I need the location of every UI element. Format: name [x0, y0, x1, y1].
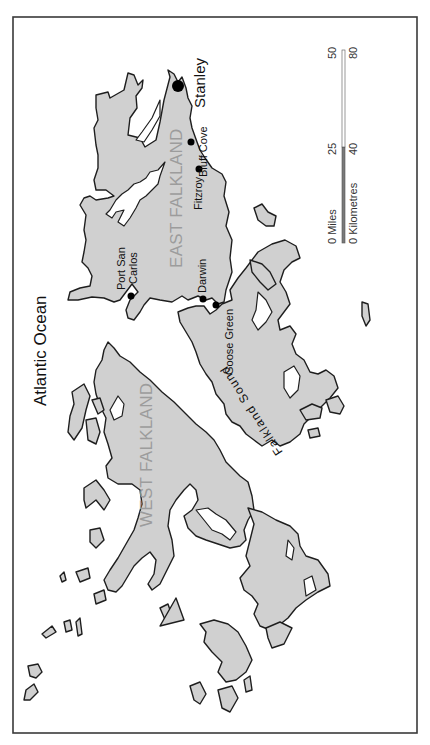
island — [24, 684, 38, 700]
island — [326, 396, 344, 414]
island — [86, 418, 100, 444]
stanley-marker — [172, 80, 184, 92]
port-san-carlos-label-line2: Carlos — [127, 252, 139, 284]
east-falkland-label: EAST FALKLAND — [167, 128, 186, 268]
island — [64, 620, 72, 632]
scale-bar-dark-segment — [342, 147, 345, 243]
island — [90, 528, 104, 548]
scale-miles-end: 50 — [326, 47, 338, 59]
island — [244, 676, 252, 692]
scale-km-label: 0 Kilometres — [347, 182, 359, 244]
scale-km-mid: 40 — [347, 143, 359, 155]
stanley-label: Stanley — [191, 57, 208, 108]
island — [266, 622, 292, 648]
island — [218, 686, 238, 712]
scale-km-end: 80 — [347, 47, 359, 59]
island — [190, 682, 206, 704]
island — [76, 618, 82, 636]
falklands-map: Stanley Bluff Cove Fitzroy Darwin Goose … — [0, 0, 430, 745]
island — [76, 568, 90, 582]
bluff-cove-label: Bluff Cove — [197, 126, 209, 177]
port-san-carlos-marker — [128, 293, 135, 300]
island — [60, 572, 66, 582]
island — [28, 664, 42, 678]
port-san-carlos-label-line1: Port San — [115, 247, 127, 290]
scale-miles-label: 0 Miles — [326, 209, 338, 244]
southwest-landmass — [240, 508, 330, 630]
island — [94, 590, 106, 604]
island — [42, 626, 56, 638]
island — [200, 620, 252, 682]
west-falkland-label: WEST FALKLAND — [137, 383, 156, 527]
island — [254, 204, 276, 226]
darwin-marker — [200, 296, 207, 303]
scale-bar-light-segment — [342, 50, 345, 147]
island — [362, 302, 370, 326]
goose-green-marker — [213, 302, 220, 309]
island — [84, 480, 110, 510]
atlantic-ocean-label: Atlantic Ocean — [31, 295, 50, 406]
island — [308, 428, 320, 438]
scale-miles-mid: 25 — [326, 143, 338, 155]
fitzroy-label: Fitzroy — [192, 177, 204, 211]
darwin-label: Darwin — [196, 259, 208, 293]
bluff-cove-marker — [188, 139, 195, 146]
scale-bar: 0 Miles 0 Kilometres 25 40 50 80 — [326, 47, 359, 244]
